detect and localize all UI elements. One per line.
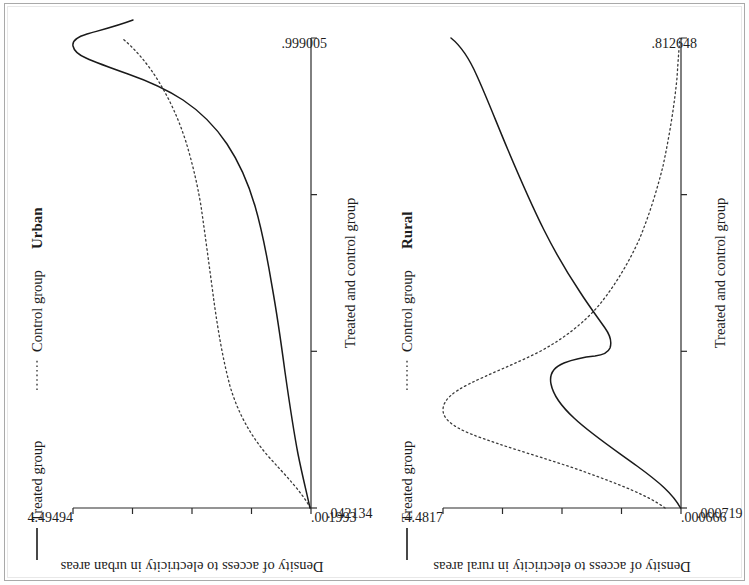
- urban-curve-treated: [73, 20, 310, 508]
- urban-yaxis-title: Density of access to electricity in urba…: [60, 559, 323, 575]
- rural-yticklabel-max: 4.4817: [405, 510, 444, 525]
- rural-xticklabel-min: .000719: [697, 505, 743, 520]
- figure-page: Treated group Control group Urban: [0, 0, 749, 585]
- panel-title-urban: Urban: [29, 206, 45, 248]
- panel-urban-rotated-canvas: Treated group Control group Urban: [11, 8, 381, 585]
- figure-frame: Treated group Control group Urban: [4, 3, 745, 581]
- legend-control-label-rural: Control group: [399, 270, 415, 352]
- urban-xaxis-title: Treated and control group: [342, 197, 358, 347]
- urban-xticklabel-max: .999005: [282, 35, 328, 50]
- panel-title-rural: Rural: [399, 211, 415, 249]
- legend-control-label-urban: Control group: [29, 270, 45, 352]
- urban-yticklabel-max: 4.49494: [28, 510, 74, 525]
- urban-curve-control: [122, 38, 310, 508]
- panel-rural: Treated group Control group Rural: [379, 4, 749, 585]
- urban-xticklabel-min: .042134: [327, 505, 373, 520]
- rural-plot-svg: Treated group Control group Rural: [381, 8, 749, 585]
- rural-curve-control: [443, 38, 680, 508]
- rural-curve-treated: [451, 38, 681, 508]
- rural-xticklabel-max: .812648: [652, 35, 698, 50]
- rural-yaxis-title: Density of access to electricity in rura…: [433, 559, 691, 575]
- panel-rural-rotated-canvas: Treated group Control group Rural: [381, 8, 749, 585]
- panel-urban: Treated group Control group Urban: [9, 4, 383, 585]
- rural-xaxis-title: Treated and control group: [712, 197, 728, 347]
- panel-rural-plot: Treated group Control group Rural: [381, 8, 749, 585]
- urban-plot-svg: Treated group Control group Urban: [11, 8, 381, 585]
- panel-urban-plot: Treated group Control group Urban: [11, 8, 381, 585]
